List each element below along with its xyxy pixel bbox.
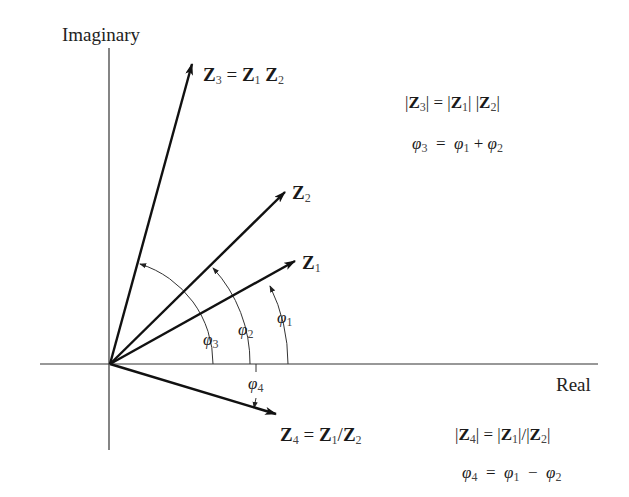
phasor-diagram	[0, 0, 629, 497]
z4-caption: Z4 = Z1/Z2	[280, 424, 362, 448]
phi2-arc	[213, 268, 250, 364]
product-angle-equation: φ3 = φ1 + φ2	[412, 134, 503, 156]
quotient-angle-equation: φ4 = φ1 − φ2	[462, 463, 561, 485]
product-magnitude-equation: |Z3| = |Z1| |Z2|	[405, 93, 500, 115]
vector-z3	[110, 64, 192, 364]
z3-caption: Z3 = Z1 Z2	[203, 64, 284, 88]
phi2-label: φ2	[238, 320, 253, 342]
z1-label: Z1	[302, 252, 321, 276]
vector-z2	[110, 192, 285, 364]
quotient-magnitude-equation: |Z4| = |Z1|/|Z2|	[455, 425, 550, 447]
phi4-label: φ4	[248, 374, 263, 396]
real-axis-label: Real	[556, 374, 591, 396]
phi1-label: φ1	[277, 308, 292, 330]
imaginary-axis-label: Imaginary	[62, 24, 140, 46]
phi3-label: φ3	[203, 330, 218, 352]
z2-label: Z2	[292, 182, 311, 206]
